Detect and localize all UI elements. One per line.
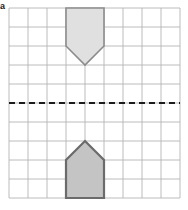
pentagon-object-bottom [66, 141, 104, 198]
pentagon-image-top [66, 8, 104, 65]
reflection-diagram [0, 0, 188, 210]
figure-root: a [0, 0, 188, 210]
